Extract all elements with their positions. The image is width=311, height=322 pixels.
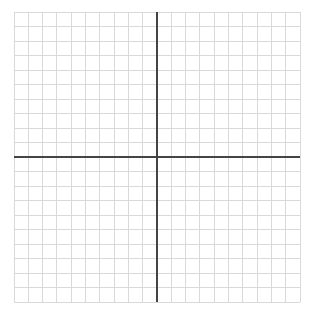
plot-background	[0, 0, 311, 322]
grid-plot-area	[0, 0, 311, 322]
coordinate-grid-figure	[0, 0, 311, 322]
